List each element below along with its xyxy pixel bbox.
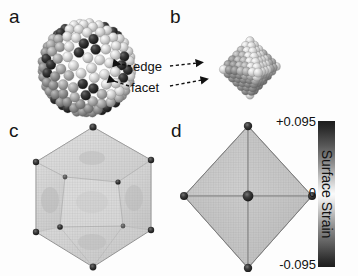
octahedral-cluster-svg bbox=[196, 12, 304, 124]
colorbar-tick-min: -0.095 bbox=[279, 258, 316, 271]
cropped-caption-sliver bbox=[4, 271, 184, 276]
panel-label-c: c bbox=[9, 121, 18, 140]
leader-edge-right bbox=[170, 63, 197, 66]
icosahedron-body bbox=[36, 127, 151, 267]
panel-b-octahedral-cluster bbox=[196, 12, 304, 124]
panel-c-icosahedron-strain-map bbox=[20, 122, 166, 276]
colorbar-tick-mid: 0 bbox=[309, 186, 316, 199]
colorbar: +0.095 0 -0.095 Surface Strain bbox=[265, 113, 358, 273]
figure-canvas: a bbox=[0, 0, 358, 276]
colorbar-tick-max: +0.095 bbox=[276, 115, 316, 128]
panel-label-a: a bbox=[9, 7, 19, 26]
panel-label-b: b bbox=[170, 7, 180, 26]
colorbar-axis-title: Surface Strain bbox=[318, 121, 336, 267]
annotation-label-edge: edge bbox=[133, 60, 162, 73]
annotation-label-facet: facet bbox=[131, 81, 159, 94]
panel-a-icosahedral-cluster bbox=[28, 12, 146, 124]
icosahedral-cluster-svg bbox=[28, 12, 146, 124]
icosahedron-strain-svg bbox=[20, 122, 166, 272]
